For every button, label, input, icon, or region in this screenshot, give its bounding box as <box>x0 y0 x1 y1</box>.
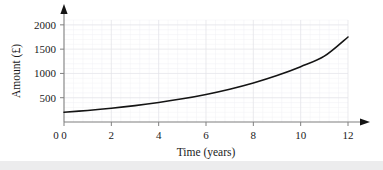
x-tick-label: 8 <box>251 129 257 141</box>
y-tick-label: 2000 <box>34 19 57 31</box>
amount-vs-time-line-chart: 0246810120 500100015002000 Time (years) … <box>0 0 383 170</box>
x-tick-label: 12 <box>343 129 354 141</box>
x-tick-label: 10 <box>295 129 307 141</box>
x-tick-label: 0 <box>61 129 67 141</box>
y-tick-label: 1500 <box>34 43 57 55</box>
chart-background <box>0 0 383 170</box>
x-tick-label: 4 <box>156 129 162 141</box>
x-axis-title: Time (years) <box>177 146 236 159</box>
origin-label: 0 <box>53 129 59 141</box>
y-tick-label: 1000 <box>34 67 57 79</box>
x-tick-label: 6 <box>203 129 209 141</box>
bottom-edge-strip <box>0 161 383 170</box>
x-tick-label: 2 <box>109 129 115 141</box>
figure-root: 0246810120 500100015002000 Time (years) … <box>0 0 383 170</box>
y-axis-title: Amount (£) <box>10 44 23 98</box>
y-tick-label: 500 <box>40 92 57 104</box>
